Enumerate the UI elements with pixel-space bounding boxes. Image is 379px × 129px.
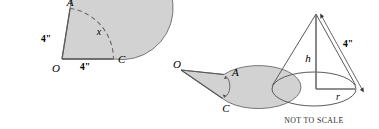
figure-circle-with-sector-removed bbox=[62, 0, 173, 60]
geometry-diagram: A C O 4" 4" x O A C bbox=[0, 0, 379, 129]
label-radius-oa: 4" bbox=[41, 34, 51, 44]
label-point-a-ellipse: A bbox=[231, 66, 239, 78]
label-cone-slant-height: 4" bbox=[343, 39, 353, 49]
cone-slant-measure-line bbox=[321, 15, 363, 91]
label-point-c-ellipse: C bbox=[222, 102, 230, 114]
geometry-figure-panel: A C O 4" 4" x O A C bbox=[0, 0, 379, 129]
label-point-c-circle: C bbox=[118, 53, 126, 65]
label-point-a-circle: A bbox=[66, 0, 74, 8]
cone-slant-arrow-bottom bbox=[360, 87, 364, 92]
label-radius-oc: 4" bbox=[80, 62, 90, 72]
label-center-o-circle: O bbox=[52, 62, 60, 74]
not-to-scale-caption: NOT TO SCALE bbox=[284, 116, 343, 125]
figure-rolled-ellipse bbox=[181, 66, 301, 109]
cone-slant-arrow-top bbox=[320, 14, 324, 19]
label-center-o-ellipse: O bbox=[173, 58, 181, 70]
label-arc-x: x bbox=[96, 26, 102, 37]
label-cone-radius-r: r bbox=[336, 91, 340, 102]
circle-shaded-region bbox=[62, 0, 173, 60]
label-cone-height-h: h bbox=[305, 52, 311, 64]
